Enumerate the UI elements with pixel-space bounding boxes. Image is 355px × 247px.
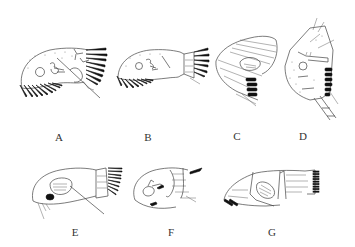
panel-label-b: B (144, 132, 151, 143)
drawing-a (20, 48, 107, 98)
illustration (0, 0, 355, 247)
panel-label-e: E (72, 227, 79, 238)
drawing-f (134, 168, 202, 208)
drawing-b (117, 48, 209, 88)
drawing-c (216, 36, 277, 106)
panel-label-d: D (299, 131, 307, 142)
drawing-e (32, 168, 122, 219)
panel-label-g: G (268, 227, 276, 238)
panel-label-a: A (55, 132, 63, 143)
drawing-g (224, 170, 319, 206)
drawing-d (285, 18, 338, 120)
panel-label-f: F (168, 227, 174, 238)
panel-label-c: C (233, 131, 240, 142)
figure: A B C D E F G (0, 0, 355, 247)
